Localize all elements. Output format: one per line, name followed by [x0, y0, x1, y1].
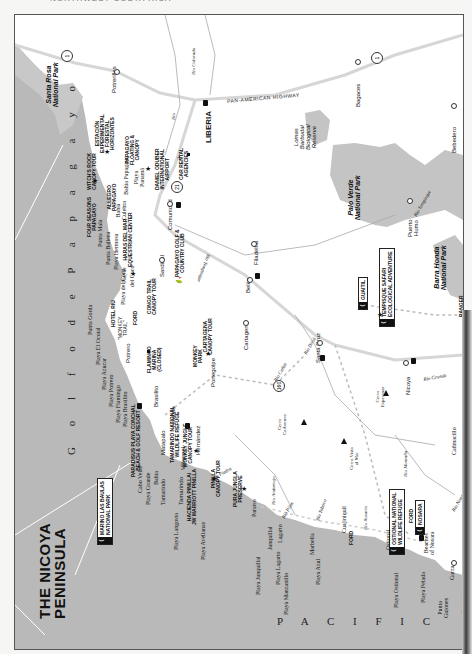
poi-label: ALLEGRO PAPAGAYO — [107, 184, 117, 211]
town-label: Junquillal — [267, 526, 273, 550]
peak-icon — [341, 438, 347, 444]
city-label: LIBERIA — [205, 111, 213, 143]
star-icon: ★ — [145, 165, 151, 172]
star-icon: ★ — [205, 350, 211, 357]
poi-label: PAPAGAYO FLOATING & CANOPY — [125, 135, 140, 165]
river-label: Río — [171, 113, 176, 120]
star-icon: ★ — [211, 475, 217, 482]
poi-label: "MONKEY TRAIL" — [118, 317, 128, 340]
park-label: Santa Rosa National Park — [45, 62, 59, 107]
gulf-label: G o l f o d e P a p a g a y o — [65, 77, 77, 455]
peak-label: Cerro Carbonera — [277, 414, 287, 435]
route-shield-icon: 1 — [371, 52, 383, 64]
beach-label: Punta Ballena — [105, 232, 111, 266]
running-header: NORTHWEST COSTA RICA — [50, 0, 250, 4]
poi-label: HOTEL RIU — [111, 300, 116, 327]
beach-label: Playa Azucar — [101, 358, 107, 390]
attraction-marker-icon: ( — [359, 302, 367, 309]
attraction-badge[interactable]: (GUAITIL — [358, 277, 368, 310]
beach-label: Punta Guiones — [437, 598, 449, 618]
poi-label: MONKEY JUNGLE CANOPY TOUR — [183, 423, 193, 467]
town-marker-icon — [114, 69, 120, 75]
town-label: Bebedero — [451, 127, 457, 153]
star-icon: ★ — [92, 177, 98, 184]
beach-label: Playa Azul — [315, 559, 321, 585]
beach-label: Playa Panamá — [133, 168, 145, 187]
poi-label: CONGO TRAIL CANOPY TOUR — [147, 278, 157, 315]
gas-station-icon — [411, 358, 416, 364]
gas-station-icon — [320, 355, 325, 361]
town-label: Tamarindo — [178, 477, 184, 505]
attraction-badge[interactable]: (OSTIONAL NATIONAL WILDLIFE REFUGE — [389, 489, 405, 555]
route-shield-icon: 1 — [61, 50, 73, 62]
gas-station-icon — [185, 423, 190, 429]
airport-icon: ✈ — [177, 155, 182, 161]
gas-station-icon — [203, 100, 208, 106]
poi-marker-icon — [187, 153, 190, 156]
river-label: Río Montaña — [403, 451, 408, 477]
town-label: Cartagena — [243, 322, 249, 350]
beach-label: Playa Pelada — [420, 572, 426, 603]
star-icon: ★ — [241, 485, 247, 492]
attraction-badge[interactable]: (NOSARA — [415, 500, 425, 535]
beach-label: Playa Lagarto — [275, 552, 281, 586]
poi-label: FORD — [133, 311, 138, 325]
town-label: Playas — [121, 267, 127, 283]
town-label: Bagaces — [355, 84, 361, 107]
town-label: Cañmacillo — [451, 427, 457, 455]
town-marker-icon — [355, 59, 361, 65]
park-label: Palo Verde National Park — [347, 175, 361, 220]
attraction-marker-icon: ( — [98, 537, 112, 544]
town-label: Cuajiniquil — [341, 506, 347, 533]
beach-label: Bahía — [153, 471, 159, 485]
attraction-badge[interactable]: (MARINO LAS BAULAS NATIONAL PARK — [97, 478, 113, 545]
town-marker-icon — [451, 103, 457, 109]
star-icon: ★ — [104, 148, 110, 155]
gas-station-icon — [176, 202, 181, 208]
map-frame: THE NICOYA PENINSULA G o l f o d e P a p… — [14, 14, 464, 650]
poi-label: DANIEL ODUBER INTERNATIONAL AIRPORT — [155, 148, 170, 190]
town-label: Paraíso — [251, 499, 257, 517]
beach-label: Playa Potrero — [108, 375, 114, 408]
star-icon: ★ — [130, 270, 136, 277]
town-label: Brasilito — [153, 386, 159, 407]
beach-label: Playa Langosta — [173, 513, 179, 550]
town-marker-icon — [247, 277, 253, 283]
map-title: THE NICOYA PENINSULA — [37, 523, 67, 619]
town-label: Potrero — [125, 343, 131, 363]
golf-icon: ⛳ — [175, 277, 182, 283]
town-label: Marbella — [309, 533, 315, 555]
river-label: Río Andamojo — [271, 476, 276, 505]
ocean-label: P A C I F I C — [277, 615, 438, 627]
beach-label: Playa Avellanas — [200, 522, 206, 560]
pan-american-highway — [15, 35, 463, 100]
town-marker-icon — [251, 241, 257, 247]
beach-label: Playa Manzanillo — [283, 573, 289, 615]
town-marker-icon — [451, 560, 457, 566]
beach-label: Punta Gorda — [87, 305, 93, 335]
attraction-marker-icon: ( — [390, 547, 404, 554]
poi-label: HARAS DEL MAR EQUESTRIAN CENTER — [123, 212, 133, 267]
town-marker-icon — [243, 320, 249, 326]
town-label: Puerto Humo — [407, 219, 419, 237]
peak-label: Cerro Esperanza — [375, 386, 385, 407]
town-label: Lagarto — [277, 524, 283, 543]
poi-label: FORD — [349, 531, 354, 545]
poi-marker-icon — [463, 305, 464, 308]
page-edge-shadow — [462, 310, 472, 654]
beach-label: Punta Mala — [97, 220, 103, 248]
route-shield-icon: 21 — [171, 181, 183, 193]
town-marker-icon — [403, 360, 409, 366]
star-icon: ★ — [193, 447, 199, 454]
river-label: Río Colorado — [191, 48, 196, 75]
beach-label: Playa Grande — [145, 473, 151, 506]
town-marker-icon — [407, 198, 413, 204]
beach-label: Playa Flamingo — [115, 385, 121, 423]
park-label: Barra Honda National Park — [433, 245, 447, 290]
beach-label: Tamarindo — [160, 479, 166, 505]
town-marker-icon — [159, 257, 165, 263]
poi-label: HACIENDA PINILLA/ JW MARRIOTT PINILLA — [187, 469, 197, 525]
map-page: NORTHWEST COSTA RICA — [0, 0, 472, 654]
beach-label: Playa Junquillal — [255, 557, 261, 596]
town-label: Nicoya — [405, 377, 411, 395]
